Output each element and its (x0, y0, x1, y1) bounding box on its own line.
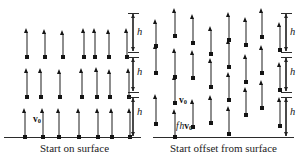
arrow-shaft (94, 32, 96, 57)
arrow-head-down-icon (131, 87, 135, 91)
scale-tick (128, 137, 139, 138)
height-label-h: h (137, 107, 142, 118)
arrow-head-down-icon (284, 47, 288, 51)
arrow-head-icon (76, 108, 80, 113)
arrow-foot-marker (41, 135, 45, 139)
double-arrow-bar (285, 98, 286, 136)
arrow-shaft (192, 18, 194, 43)
arrow-head-icon (57, 69, 61, 74)
arrow-head-down-icon (131, 132, 135, 136)
arrow-head-icon (190, 50, 194, 55)
arrow-head-icon (94, 67, 98, 72)
arrow-foot-marker (191, 41, 195, 45)
arrow-shaft (192, 103, 194, 127)
arrow-head-icon (22, 108, 26, 113)
arrow-foot-marker (154, 122, 158, 126)
arrow-head-icon (277, 22, 281, 27)
arrow-shaft (245, 58, 247, 82)
arrow-head-icon (226, 12, 230, 17)
arrow-foot-marker (191, 76, 195, 80)
arrow-head-up-icon (131, 14, 135, 18)
arrow-head-icon (92, 28, 96, 33)
arrow-shaft (78, 112, 80, 137)
arrow-shaft (26, 72, 28, 97)
arrow-shaft (245, 91, 247, 115)
arrow-head-icon (107, 69, 111, 74)
arrow-shaft (128, 72, 130, 97)
arrow-shaft (228, 16, 230, 40)
arrow-foot-marker (260, 71, 264, 75)
arrow-foot-marker (61, 55, 65, 59)
arrow-head-up-icon (284, 98, 288, 102)
arrow-head-icon (40, 108, 44, 113)
arrow-shaft (108, 33, 110, 57)
arrow-foot-marker (25, 55, 29, 59)
arrow-head-icon (277, 97, 281, 102)
arrow-shaft (261, 12, 263, 37)
arrow-head-icon (79, 68, 83, 73)
arrow-shaft (210, 99, 212, 123)
arrow-head-icon (243, 54, 247, 59)
arrow-head-icon (259, 80, 263, 85)
arrow-shaft (58, 112, 60, 137)
arrow-shaft (174, 79, 176, 103)
physics-figure: hhh v0 Start on surface hhh v0f hv0 Star… (0, 0, 298, 161)
arrow-foot-marker (173, 34, 177, 38)
double-arrow-bar (132, 98, 133, 136)
arrow-foot-marker (110, 135, 114, 139)
arrow-head-down-icon (284, 87, 288, 91)
arrow-foot-marker (173, 135, 177, 139)
arrow-head-icon (172, 48, 176, 53)
label-fhv0: f hv0 (176, 122, 192, 132)
arrow-head-icon (153, 19, 157, 24)
double-arrow-bar (285, 14, 286, 51)
arrow-head-icon (208, 95, 212, 100)
arrow-head-icon (172, 8, 176, 13)
arrow-head-icon (24, 68, 28, 73)
arrow-foot-marker (39, 95, 43, 99)
arrow-shaft (155, 23, 157, 46)
arrow-head-icon (172, 109, 176, 114)
arrow-head-icon (277, 62, 281, 67)
arrow-shaft (24, 112, 26, 137)
arrow-head-icon (56, 108, 60, 113)
arrow-shaft (261, 49, 263, 73)
scale-tick (128, 52, 139, 53)
arrow-head-icon (259, 8, 263, 13)
arrow-foot-marker (227, 132, 231, 136)
arrow-shaft (97, 112, 99, 137)
arrow-foot-marker (244, 113, 248, 117)
arrow-shaft (42, 112, 44, 137)
arrow-foot-marker (57, 135, 61, 139)
arrow-shaft (81, 72, 83, 97)
arrow-head-icon (126, 68, 130, 73)
arrow-shaft (210, 62, 212, 87)
arrow-shaft (261, 84, 263, 108)
arrow-shaft (109, 73, 111, 97)
height-label-h: h (137, 27, 142, 38)
arrow-shaft (83, 32, 85, 57)
arrow-shaft (62, 34, 64, 57)
arrow-foot-marker (278, 124, 282, 128)
arrow-head-icon (259, 45, 263, 50)
arrow-foot-marker (244, 43, 248, 47)
double-arrow-bar (132, 58, 133, 91)
label-v0: v0 (33, 115, 41, 125)
arrow-head-up-icon (131, 98, 135, 102)
arrow-foot-marker (227, 98, 231, 102)
arrow-shaft (228, 43, 230, 67)
arrow-shaft (155, 98, 157, 124)
arrow-shaft (279, 66, 281, 90)
arrow-shaft (126, 32, 128, 57)
arrow-foot-marker (209, 85, 213, 89)
arrow-head-icon (208, 26, 212, 31)
arrow-shaft (210, 30, 212, 54)
arrow-foot-marker (93, 55, 97, 59)
double-arrow-bar (285, 58, 286, 91)
label-v0: v0 (179, 96, 187, 106)
caption-right: Start offset from surface (149, 142, 298, 154)
arrow-head-icon (226, 39, 230, 44)
scale-tick (128, 92, 139, 93)
arrow-foot-marker (260, 35, 264, 39)
arrow-head-icon (153, 44, 157, 49)
